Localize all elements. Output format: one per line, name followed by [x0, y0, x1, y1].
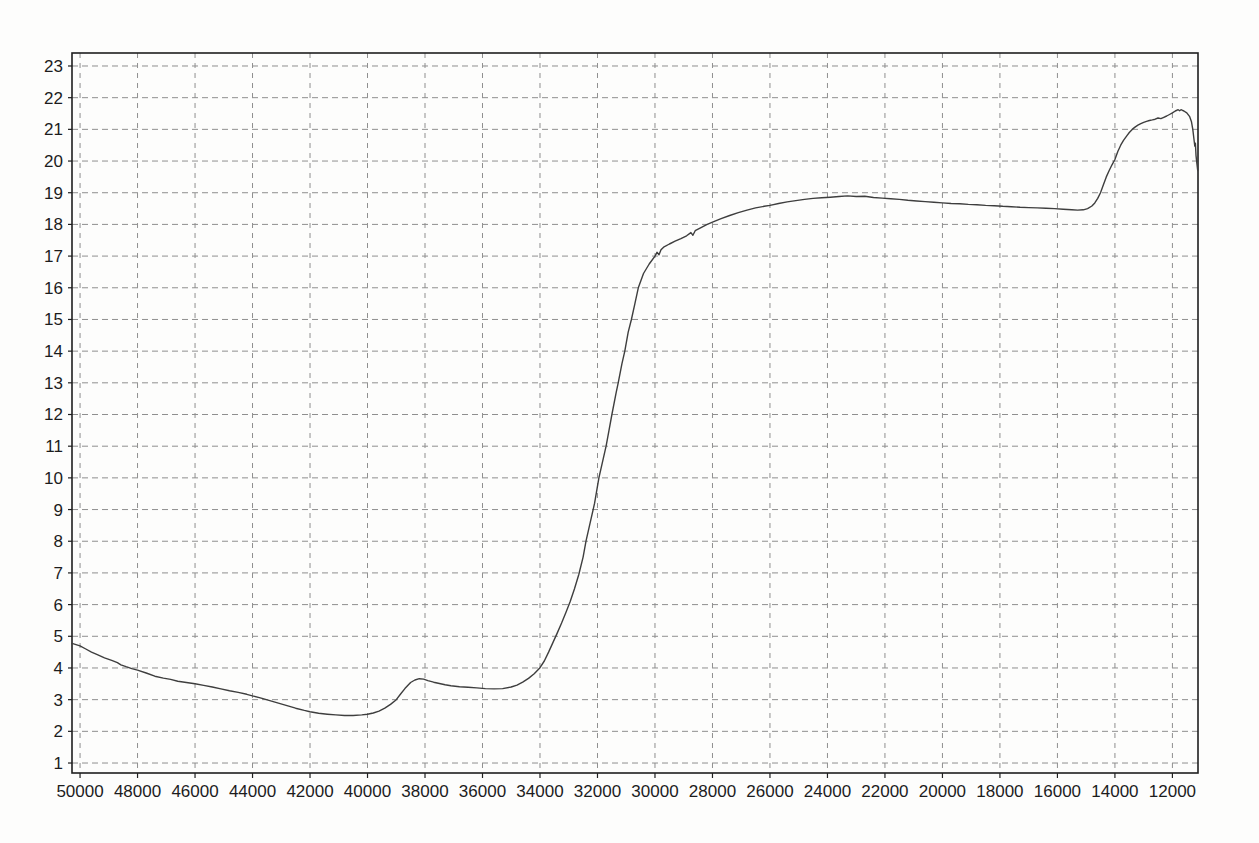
y-axis-tick-label: 10 [44, 469, 63, 488]
x-axis-tick-label: 46000 [171, 782, 218, 801]
y-axis-tick-label: 4 [54, 659, 63, 678]
y-axis-tick-label: 2 [54, 722, 63, 741]
y-axis-tick-label: 21 [44, 120, 63, 139]
x-axis-tick-label: 32000 [574, 782, 621, 801]
x-axis-tick-label: 40000 [344, 782, 391, 801]
y-axis-tick-label: 16 [44, 279, 63, 298]
y-axis-tick-label: 20 [44, 152, 63, 171]
x-axis-tick-label: 30000 [631, 782, 678, 801]
x-axis-tick-label: 28000 [689, 782, 736, 801]
y-axis-tick-label: 23 [44, 57, 63, 76]
x-axis-tick-label: 38000 [401, 782, 448, 801]
x-axis-tick-label: 14000 [1091, 782, 1138, 801]
y-axis-tick-label: 13 [44, 374, 63, 393]
x-axis-tick-label: 24000 [804, 782, 851, 801]
x-axis-tick-label: 20000 [919, 782, 966, 801]
x-axis-tick-label: 18000 [976, 782, 1023, 801]
y-axis-tick-label: 9 [54, 501, 63, 520]
y-axis-tick-label: 11 [45, 437, 63, 456]
x-axis-tick-label: 42000 [286, 782, 333, 801]
y-axis-tick-label: 14 [44, 342, 63, 361]
y-axis-tick-label: 8 [54, 532, 63, 551]
y-axis-tick-label: 12 [44, 405, 63, 424]
x-axis-tick-label: 26000 [746, 782, 793, 801]
y-axis-tick-label: 3 [54, 691, 63, 710]
y-axis-tick-label: 1 [54, 754, 63, 773]
x-axis-tick-label: 36000 [459, 782, 506, 801]
y-axis-tick-label: 15 [44, 310, 63, 329]
y-axis-tick-label: 5 [54, 627, 63, 646]
x-axis-tick-label: 12000 [1149, 782, 1196, 801]
chart-canvas: 1234567891011121314151617181920212223500… [0, 0, 1259, 843]
x-axis-tick-label: 22000 [861, 782, 908, 801]
y-axis-tick-label: 22 [44, 89, 63, 108]
y-axis-tick-label: 18 [44, 215, 63, 234]
y-axis-tick-label: 19 [44, 184, 63, 203]
y-axis-tick-label: 6 [54, 596, 63, 615]
y-axis-tick-label: 7 [54, 564, 63, 583]
scanned-line-chart-page: 1234567891011121314151617181920212223500… [0, 0, 1259, 843]
data-series-line [72, 110, 1198, 716]
x-axis-tick-label: 48000 [114, 782, 161, 801]
y-axis-tick-label: 17 [44, 247, 63, 266]
x-axis-tick-label: 50000 [56, 782, 103, 801]
x-axis-tick-label: 16000 [1034, 782, 1081, 801]
x-axis-tick-label: 34000 [516, 782, 563, 801]
x-axis-tick-label: 44000 [229, 782, 276, 801]
